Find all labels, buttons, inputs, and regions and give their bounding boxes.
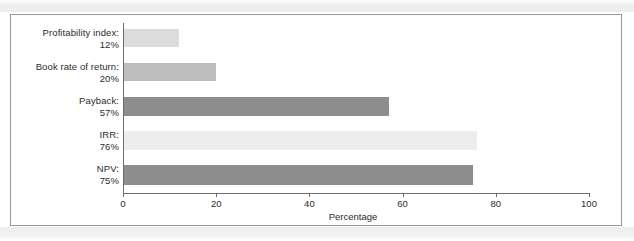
category-label: Payback: 57% (11, 95, 119, 119)
bar-profitability-index (123, 29, 179, 47)
x-axis-tick-label: 0 (120, 198, 125, 209)
bar-payback (123, 97, 389, 116)
x-axis-tick (403, 193, 404, 197)
x-axis-tick-label: 60 (397, 198, 408, 209)
scan-band-top (0, 0, 634, 12)
category-name: Book rate of return: (11, 61, 119, 73)
x-axis-tick-label: 20 (211, 198, 222, 209)
x-axis-tick (216, 193, 217, 197)
chart-screenshot: Profitability index: 12% Book rate of re… (0, 0, 634, 241)
y-axis-line (123, 23, 124, 194)
category-value: 75% (11, 175, 119, 187)
x-axis-tick (589, 193, 590, 197)
bar-book-rate-of-return (123, 63, 216, 81)
category-value: 12% (11, 39, 119, 51)
category-value: 20% (11, 73, 119, 85)
category-value: 76% (11, 141, 119, 153)
category-label: NPV: 75% (11, 163, 119, 187)
bar-npv (123, 165, 473, 185)
category-name: Payback: (11, 95, 119, 107)
category-value: 57% (11, 107, 119, 119)
x-axis-line (123, 193, 590, 194)
x-axis-tick (123, 193, 124, 197)
plot-area: Profitability index: 12% Book rate of re… (11, 15, 623, 227)
scan-band-bottom (0, 227, 634, 241)
x-axis-title: Percentage (11, 211, 623, 222)
x-axis-tick (309, 193, 310, 197)
category-label: Profitability index: 12% (11, 27, 119, 51)
x-axis-tick (496, 193, 497, 197)
category-name: Profitability index: (11, 27, 119, 39)
x-axis-title-text: Percentage (329, 211, 378, 222)
category-name: NPV: (11, 163, 119, 175)
bar-irr (123, 131, 477, 150)
category-name: IRR: (11, 129, 119, 141)
x-axis-tick-label: 80 (491, 198, 502, 209)
chart-frame: Profitability index: 12% Book rate of re… (10, 14, 622, 226)
category-label: Book rate of return: 20% (11, 61, 119, 85)
x-axis-tick-label: 100 (581, 198, 597, 209)
category-label: IRR: 76% (11, 129, 119, 153)
category-label-column: Profitability index: 12% Book rate of re… (11, 23, 123, 193)
x-axis-tick-label: 40 (304, 198, 315, 209)
bars-area (123, 23, 589, 193)
